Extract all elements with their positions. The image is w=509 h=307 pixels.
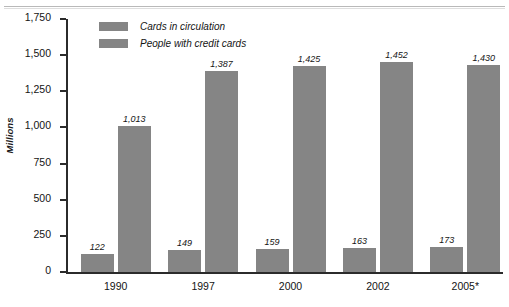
y-axis-tick-label: 250 xyxy=(7,228,51,240)
bar: 149 xyxy=(168,250,201,272)
bar: 1,452 xyxy=(380,62,413,272)
bar-value-label: 1,452 xyxy=(385,50,408,60)
bar-value-label: 159 xyxy=(264,237,279,247)
scan-artifact-line-secondary xyxy=(4,8,505,9)
y-axis-tick: 250 xyxy=(60,235,66,237)
bar-value-label: 1,430 xyxy=(473,53,496,63)
bar: 163 xyxy=(343,248,376,272)
x-axis-category-label: 2005* xyxy=(452,280,479,292)
x-axis-category-label: 1997 xyxy=(191,280,214,292)
bar-value-label: 1,013 xyxy=(123,114,146,124)
bar: 122 xyxy=(81,254,114,272)
chart-legend: Cards in circulation People with credit … xyxy=(99,19,246,53)
bar: 1,425 xyxy=(293,66,326,272)
plot-area: 02505007501,0001,2501,5001,750 1221,0131… xyxy=(66,19,503,272)
legend-item-label: People with credit cards xyxy=(140,38,246,49)
scan-artifact-line xyxy=(4,6,505,7)
bar-value-label: 173 xyxy=(439,235,454,245)
bar-value-label: 122 xyxy=(90,242,105,252)
bar: 159 xyxy=(256,249,289,272)
bar-value-label: 1,387 xyxy=(210,59,233,69)
x-axis-line xyxy=(66,272,503,274)
legend-swatch-icon xyxy=(99,22,128,31)
x-axis-category-label: 2002 xyxy=(366,280,389,292)
y-axis-tick: 1,750 xyxy=(60,18,66,20)
bar: 1,013 xyxy=(118,126,151,272)
bar-value-label: 1,425 xyxy=(298,54,321,64)
y-axis-tick: 0 xyxy=(60,271,66,273)
y-axis-tick: 1,000 xyxy=(60,126,66,128)
legend-item-people-with-credit-cards: People with credit cards xyxy=(99,36,246,50)
bar-value-label: 149 xyxy=(177,238,192,248)
bar: 1,430 xyxy=(467,65,500,272)
x-axis-category-label: 1990 xyxy=(104,280,127,292)
x-axis-category-label: 2000 xyxy=(279,280,302,292)
y-axis-tick-label: 500 xyxy=(7,192,51,204)
y-axis-line xyxy=(66,19,68,272)
y-axis-tick: 750 xyxy=(60,163,66,165)
y-axis-tick-label: 0 xyxy=(7,264,51,276)
bar: 173 xyxy=(430,247,463,272)
y-axis-tick-label: 1,500 xyxy=(7,47,51,59)
y-axis-tick-label: 1,250 xyxy=(7,83,51,95)
legend-item-label: Cards in circulation xyxy=(140,21,225,32)
y-axis-tick: 1,500 xyxy=(60,54,66,56)
legend-swatch-icon xyxy=(99,39,128,48)
y-axis-tick-label: 1,000 xyxy=(7,119,51,131)
y-axis-tick-label: 1,750 xyxy=(7,11,51,23)
bar-chart: Millions 02505007501,0001,2501,5001,750 … xyxy=(0,0,509,307)
bar-value-label: 163 xyxy=(352,236,367,246)
legend-item-cards-in-circulation: Cards in circulation xyxy=(99,19,246,33)
y-axis-tick: 500 xyxy=(60,199,66,201)
y-axis-tick: 1,250 xyxy=(60,90,66,92)
y-axis-tick-label: 750 xyxy=(7,156,51,168)
bar: 1,387 xyxy=(205,71,238,272)
